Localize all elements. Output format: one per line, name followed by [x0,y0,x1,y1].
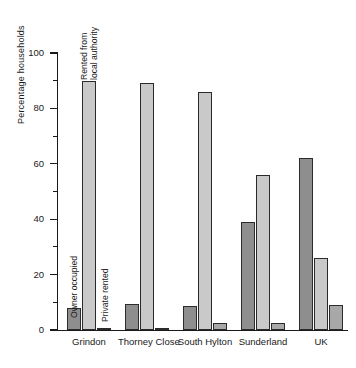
y-tick-major [50,274,58,275]
x-tick-label-thorney-close: Thorney Close [118,336,176,347]
bar [329,305,344,330]
y-tick-label: 80 [33,103,44,113]
bar [82,81,97,330]
y-tick-label: 40 [33,214,44,224]
x-axis-line [57,330,348,331]
bar [314,258,329,330]
y-axis-title: Percentage households [16,0,26,124]
bar [155,328,170,330]
bar-group [125,53,170,330]
y-tick-major [50,219,58,220]
y-tick-major [50,163,58,164]
bar [241,222,256,330]
y-tick-label: 0 [39,325,44,335]
y-tick-label: 60 [33,159,44,169]
y-tick-major [50,52,58,53]
bar [125,304,140,330]
bar [198,92,213,330]
bar [97,328,112,330]
bar-chart: Percentage households 020406080100 Grind… [0,0,356,368]
annotation-private-rented: Private rented [101,268,111,322]
y-tick-label: 100 [28,48,44,58]
bar [299,158,314,330]
bar [140,83,155,330]
bar [256,175,271,330]
bar-group [183,53,228,330]
bar [271,323,286,330]
x-tick-label-south-hylton: South Hylton [176,336,234,347]
x-tick-label-uk: UK [292,336,350,347]
bar [183,306,198,330]
bar [213,323,228,330]
annotation-owner-occupied: Owner occupied [70,256,80,318]
y-tick-label: 20 [33,270,44,280]
bar-group [299,53,344,330]
y-tick-major [50,329,58,330]
bar-group [241,53,286,330]
annotation-rented-from-local-authority-line2: local authority [90,27,100,80]
x-tick-label-grindon: Grindon [60,336,118,347]
y-tick-major [50,108,58,109]
x-tick-label-sunderland: Sunderland [234,336,292,347]
